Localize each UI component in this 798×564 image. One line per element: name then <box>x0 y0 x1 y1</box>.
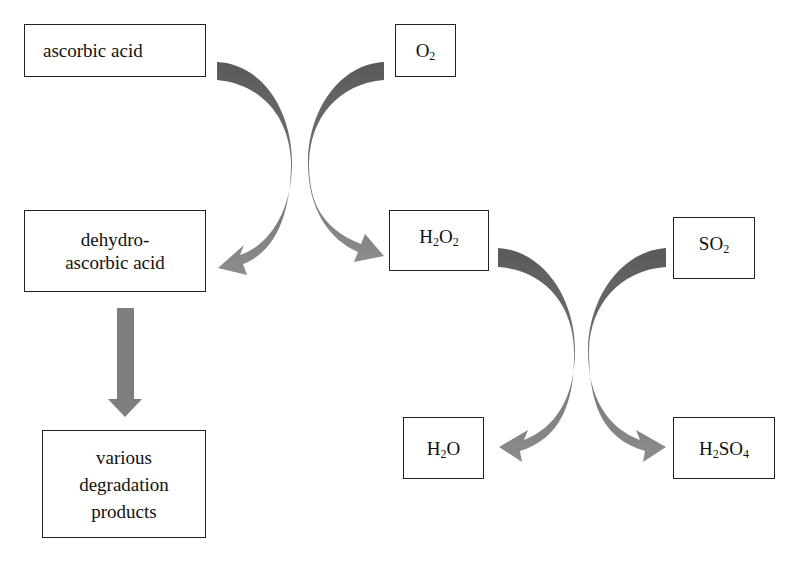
node-h2o2: H2O2 <box>389 210 489 271</box>
node-degradation-products: various degradation products <box>42 430 206 538</box>
node-label-line2: degradation <box>79 471 169 498</box>
node-label-line1: various <box>96 444 152 471</box>
node-label-line2: ascorbic acid <box>65 251 165 274</box>
node-label: SO2 <box>699 232 729 255</box>
node-dehydroascorbic-acid: dehydro- ascorbic acid <box>24 210 206 292</box>
node-label-line3: products <box>91 498 156 525</box>
node-label: H2SO4 <box>699 437 749 460</box>
node-so2: SO2 <box>673 217 755 279</box>
node-h2o: H2O <box>403 417 484 479</box>
straight-arrow-dehydro-to-products <box>108 308 142 417</box>
node-label: H2O2 <box>419 225 458 248</box>
node-label: O2 <box>416 39 436 62</box>
curved-arrow-so2-to-h2so4 <box>588 248 666 462</box>
curved-arrow-ascorbic-to-dehydro <box>217 62 292 275</box>
node-label-line1: dehydro- <box>81 228 150 251</box>
curved-arrow-h2o2-to-h2o <box>498 248 575 462</box>
node-h2so4: H2SO4 <box>673 417 775 479</box>
curved-arrow-o2-to-h2o2 <box>308 62 384 262</box>
node-label: H2O <box>427 437 460 460</box>
node-ascorbic-acid: ascorbic acid <box>24 24 206 77</box>
node-label: ascorbic acid <box>43 39 143 62</box>
node-o2: O2 <box>395 24 456 77</box>
